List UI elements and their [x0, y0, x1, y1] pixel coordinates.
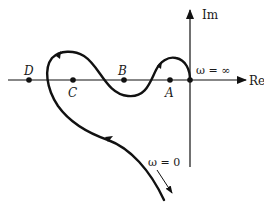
origin-marker: [187, 77, 193, 83]
point-a-marker: [167, 77, 173, 83]
point-a-label: A: [164, 86, 174, 100]
real-axis-label: Re: [249, 74, 264, 88]
omega-infinity-label: ω = ∞: [196, 64, 230, 77]
point-d-marker: [26, 77, 32, 83]
nyquist-diagram: Re Im D C B A ω = ∞ ω = 0: [0, 0, 264, 207]
point-b-marker: [121, 77, 127, 83]
omega-zero-label: ω = 0: [148, 156, 180, 169]
point-d-label: D: [23, 64, 34, 78]
point-b-label: B: [117, 64, 127, 78]
imaginary-axis-label: Im: [202, 8, 219, 22]
point-c-marker: [70, 77, 76, 83]
point-c-label: C: [68, 86, 77, 100]
